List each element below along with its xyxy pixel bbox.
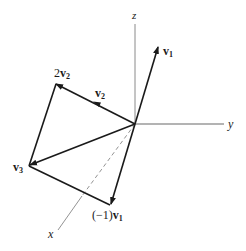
parallelogram-edge-bottom	[29, 166, 110, 205]
label-v3: v3	[13, 160, 23, 175]
vector-diagram: z y x v1 2v2 v2 v3 (−1)v1	[0, 0, 246, 251]
vector-v1	[135, 47, 158, 124]
x-axis-label: x	[47, 227, 54, 241]
label-v1: v1	[163, 44, 173, 59]
label-2v2: 2v2	[54, 66, 70, 81]
vector-neg-v1	[111, 124, 135, 204]
parallelogram-edge-left	[29, 84, 56, 166]
label-v2: v2	[95, 86, 105, 101]
y-axis-label: y	[227, 117, 234, 131]
z-axis-label: z	[131, 9, 137, 21]
vector-v3	[30, 124, 135, 165]
label-neg-v1: (−1)v1	[92, 208, 123, 223]
x-axis	[58, 196, 82, 230]
